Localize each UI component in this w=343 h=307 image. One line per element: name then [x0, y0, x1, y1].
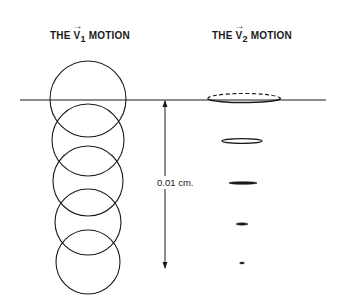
title-v1-motion: THE →V1 MOTION	[50, 30, 130, 44]
v2-ellipse-4	[236, 223, 248, 225]
vector-v2: →V2	[236, 30, 248, 44]
v1-circle-5	[56, 230, 120, 294]
v2-ellipse-5	[240, 262, 245, 264]
title-v1-suffix: MOTION	[86, 30, 130, 41]
title-v2-suffix: MOTION	[248, 30, 292, 41]
scale-label: 0.01 cm.	[157, 176, 193, 189]
diagram-canvas	[0, 0, 343, 307]
v2-ellipse-3	[229, 182, 257, 185]
v2-ellipse-1-dashed	[208, 93, 280, 99]
arrowhead-down-icon	[163, 262, 168, 269]
vector-v1: →V1	[74, 30, 86, 44]
v1-circles	[50, 61, 126, 294]
title-v2-motion: THE →V2 MOTION	[212, 30, 292, 44]
vector-arrow-icon: →	[73, 21, 83, 31]
arrowhead-up-icon	[163, 100, 168, 107]
vector-arrow-icon: →	[235, 21, 245, 31]
v2-ellipse-2	[222, 139, 262, 144]
title-v2-prefix: THE	[212, 30, 236, 41]
v1-circle-1	[50, 61, 126, 137]
vector-subscript: 1	[80, 34, 85, 44]
title-v1-prefix: THE	[50, 30, 74, 41]
v1-circle-2	[52, 104, 124, 176]
v2-ellipses	[208, 93, 280, 264]
v1-circle-3	[53, 146, 123, 216]
vector-subscript: 2	[242, 34, 247, 44]
v1-circle-4	[55, 189, 121, 255]
